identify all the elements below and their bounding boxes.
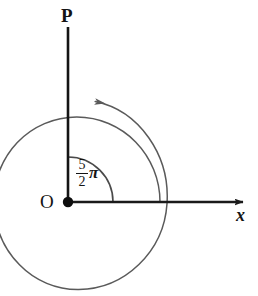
- x-axis-label: x: [236, 206, 245, 224]
- angle-fraction: 5 2: [76, 158, 88, 189]
- pi-symbol: π: [88, 164, 98, 183]
- angle-diagram-figure: P O x 5 2 π: [0, 0, 258, 296]
- fraction-denominator: 2: [77, 174, 88, 189]
- origin-dot: [63, 197, 73, 207]
- origin-label: O: [40, 192, 54, 211]
- diagram-canvas: [0, 0, 258, 296]
- point-p-label: P: [61, 6, 73, 25]
- fraction-numerator: 5: [77, 158, 88, 173]
- rotation-spiral-path: [0, 102, 167, 290]
- angle-measure-label: 5 2 π: [76, 158, 98, 189]
